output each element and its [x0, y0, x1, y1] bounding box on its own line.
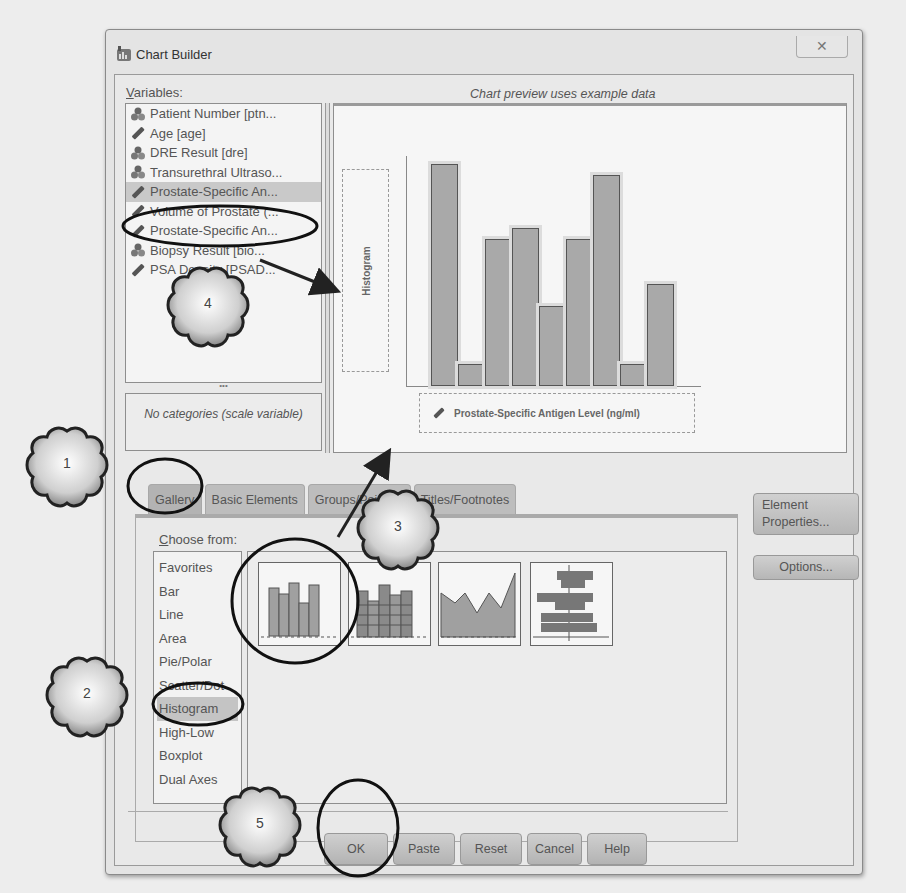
highlight-ellipse-histogram: [153, 683, 243, 725]
annotation-overlay: [0, 0, 906, 893]
step-2-badge: 2: [45, 655, 129, 739]
highlight-ellipse-thumbnail: [232, 539, 358, 663]
highlight-ellipse-gallery-tab: [128, 459, 202, 513]
highlight-ellipse-ok: [318, 780, 398, 876]
step-1-badge: 1: [25, 425, 109, 509]
arrow-to-x-axis: [260, 260, 330, 288]
highlight-ellipse-variable: [123, 206, 317, 246]
step-5-badge: 5: [218, 785, 302, 869]
step-4-badge: 4: [166, 265, 250, 349]
step-3-badge: 3: [356, 488, 440, 572]
